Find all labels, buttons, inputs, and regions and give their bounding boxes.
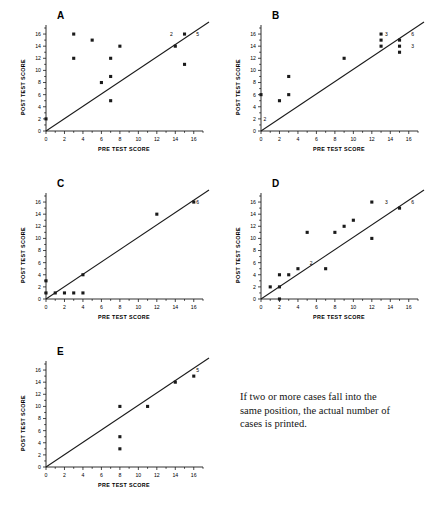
data-point [343,225,346,228]
data-point [287,93,290,96]
count-annotation: 2 [170,31,173,37]
svg-text:0: 0 [45,136,48,142]
data-point [109,99,112,102]
svg-text:14: 14 [35,43,41,49]
svg-text:6: 6 [315,304,318,310]
svg-text:12: 12 [35,391,41,397]
data-point [118,447,121,450]
data-point [287,273,290,276]
svg-text:4: 4 [38,440,41,446]
svg-text:6: 6 [38,92,41,98]
data-point [380,45,383,48]
svg-text:4: 4 [253,272,256,278]
svg-text:14: 14 [35,211,41,217]
svg-text:16: 16 [191,304,197,310]
svg-text:6: 6 [253,260,256,266]
svg-text:2: 2 [38,284,41,290]
svg-text:6: 6 [253,92,256,98]
svg-text:4: 4 [81,304,84,310]
count-annotation: 3 [385,31,388,37]
plot-area-c: 024681012141602468101214166 [0,168,215,336]
data-point [72,57,75,60]
svg-text:14: 14 [172,136,178,142]
data-point [146,405,149,408]
panel-b: B POST TEST SCORE PRE TEST SCORE 0246810… [215,0,430,168]
data-point [296,267,299,270]
figure-caption: If two or more cases fall into the same … [240,390,390,431]
data-point [287,75,290,78]
panel-d: D POST TEST SCORE PRE TEST SCORE 0246810… [215,168,430,336]
svg-text:4: 4 [81,136,84,142]
svg-text:12: 12 [250,223,256,229]
svg-text:10: 10 [35,403,41,409]
data-point [81,273,84,276]
count-annotation: 6 [411,31,414,37]
svg-text:8: 8 [38,79,41,85]
svg-text:8: 8 [253,79,256,85]
svg-text:6: 6 [100,136,103,142]
svg-text:10: 10 [35,235,41,241]
count-annotation: 6 [196,199,199,205]
svg-text:0: 0 [253,296,256,302]
data-point [278,99,281,102]
data-point [343,57,346,60]
svg-text:10: 10 [350,136,356,142]
data-point [278,285,281,288]
svg-text:2: 2 [278,136,281,142]
count-annotation: 3 [385,199,388,205]
data-point [398,207,401,210]
svg-text:8: 8 [333,136,336,142]
svg-text:16: 16 [250,31,256,37]
data-point [306,231,309,234]
svg-text:14: 14 [35,379,41,385]
svg-text:14: 14 [387,136,393,142]
data-point [278,273,281,276]
data-point [118,405,121,408]
svg-text:6: 6 [100,472,103,478]
svg-text:14: 14 [172,304,178,310]
svg-text:12: 12 [369,304,375,310]
data-point [109,57,112,60]
svg-text:16: 16 [406,136,412,142]
svg-text:12: 12 [154,136,160,142]
count-annotation: 2 [310,260,313,266]
figure-scatter-panels: A POST TEST SCORE PRE TEST SCORE 0246810… [0,0,430,512]
data-point [370,237,373,240]
svg-text:0: 0 [38,296,41,302]
svg-text:10: 10 [135,136,141,142]
count-annotation: 3 [411,43,414,49]
svg-text:4: 4 [38,272,41,278]
data-point [269,285,272,288]
svg-text:16: 16 [250,199,256,205]
svg-text:2: 2 [63,136,66,142]
data-point [183,63,186,66]
svg-text:16: 16 [191,472,197,478]
data-point [183,33,186,36]
svg-text:8: 8 [38,247,41,253]
svg-text:4: 4 [296,136,299,142]
svg-text:12: 12 [154,304,160,310]
svg-text:6: 6 [38,428,41,434]
svg-text:8: 8 [38,415,41,421]
svg-text:8: 8 [118,472,121,478]
svg-text:6: 6 [38,260,41,266]
data-point [109,75,112,78]
data-point [398,39,401,42]
data-point [259,93,262,96]
svg-text:12: 12 [154,472,160,478]
svg-text:8: 8 [253,247,256,253]
data-point [324,267,327,270]
svg-text:2: 2 [38,452,41,458]
count-annotation: 2 [264,116,267,122]
data-point [380,39,383,42]
count-annotation: 5 [196,31,199,37]
data-point [81,291,84,294]
svg-text:8: 8 [118,304,121,310]
svg-text:8: 8 [333,304,336,310]
svg-text:6: 6 [100,304,103,310]
svg-text:2: 2 [63,472,66,478]
data-point [380,33,383,36]
plot-area-e: 024681012141602468101214165 [0,336,215,504]
data-point [100,81,103,84]
data-point [155,213,158,216]
